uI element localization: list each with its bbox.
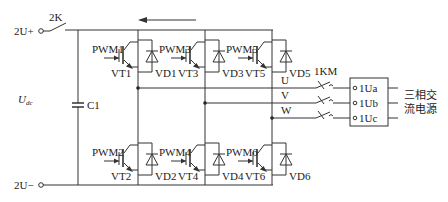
- terminal-label-1ua: 1Ua: [359, 82, 377, 94]
- diode-label-vd4: VD4: [222, 170, 244, 182]
- ac-source-terminal-box: 1Ua 1Ub 1Uc: [350, 78, 398, 126]
- terminal-label-1uc: 1Uc: [359, 112, 377, 124]
- phase-leg-w: PWM5 VT5 VD5 PWM6 VT6 VD6: [226, 30, 311, 185]
- phase-label-v: V: [281, 89, 289, 101]
- positive-terminal-label: 2U+: [14, 25, 34, 37]
- gate-label-pwm3: PWM3: [159, 43, 191, 55]
- diode-label-vd5: VD5: [289, 67, 311, 79]
- diode-label-vd1: VD1: [155, 67, 176, 79]
- gate-label-pwm2: PWM2: [92, 146, 124, 158]
- terminal-circle-icon: [353, 101, 357, 105]
- contactor-1km-icon: [316, 81, 352, 119]
- transistor-label-vt2: VT2: [111, 170, 131, 182]
- phase-output-v: V: [203, 89, 316, 105]
- contactor-label: 1KM: [314, 65, 337, 77]
- gate-label-pwm4: PWM4: [159, 146, 191, 158]
- inverter-circuit-diagram: 2U+ 2K 2U− Udc C1: [0, 0, 448, 202]
- ac-source-label-line2: 流电源: [404, 102, 437, 116]
- terminal-circle-icon: [353, 116, 357, 120]
- current-direction-arrow-icon: [138, 17, 196, 23]
- switch-2k-icon: [50, 23, 66, 31]
- switch-label: 2K: [49, 11, 63, 23]
- ac-source-label-line1: 三相交: [404, 88, 437, 102]
- gate-label-pwm1: PWM1: [92, 43, 124, 55]
- negative-terminal-label: 2U−: [14, 179, 34, 191]
- diode-label-vd3: VD3: [222, 67, 244, 79]
- terminal-circle-icon: [353, 86, 357, 90]
- terminal-circle-icon: [39, 183, 44, 188]
- transistor-label-vt3: VT3: [178, 67, 199, 79]
- transistor-label-vt4: VT4: [178, 170, 199, 182]
- gate-label-pwm6: PWM6: [226, 146, 258, 158]
- capacitor-label: C1: [87, 99, 100, 111]
- phase-label-w: W: [281, 104, 292, 116]
- transistor-label-vt5: VT5: [245, 67, 266, 79]
- dc-positive-input: 2U+ 2K: [14, 11, 66, 37]
- diode-label-vd2: VD2: [155, 170, 176, 182]
- dc-voltage-label: Udc: [18, 93, 33, 107]
- terminal-circle-icon: [39, 29, 44, 34]
- terminal-label-1ub: 1Ub: [359, 97, 378, 109]
- gate-label-pwm5: PWM5: [226, 43, 258, 55]
- phase-label-u: U: [281, 74, 289, 86]
- transistor-label-vt6: VT6: [245, 170, 266, 182]
- transistor-label-vt1: VT1: [111, 67, 131, 79]
- diode-label-vd6: VD6: [289, 170, 311, 182]
- phase-output-w: W: [270, 104, 316, 120]
